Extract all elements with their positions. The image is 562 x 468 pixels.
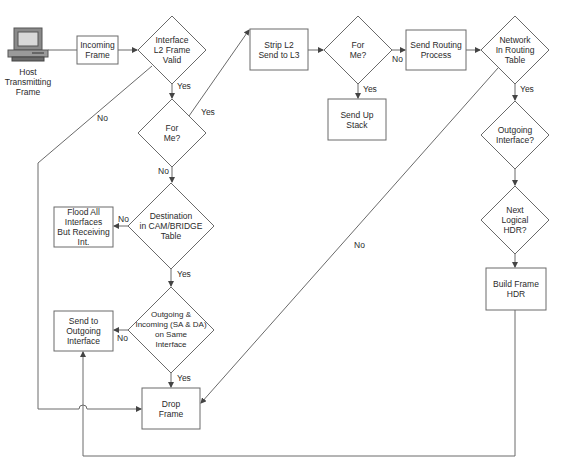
edge-label-destcam-yes: Yes	[177, 269, 191, 279]
edge-label-formel3-no: No	[392, 54, 403, 64]
edge-label-network-yes: Yes	[520, 84, 534, 94]
edge-label-destcam-no: No	[118, 214, 129, 224]
computer-icon	[8, 28, 48, 61]
incoming-frame-label: Incoming Frame	[77, 36, 118, 64]
edge-label-l2valid-yes: Yes	[177, 81, 191, 91]
edge-label-formel3-yes: Yes	[363, 84, 377, 94]
for-me-l3-label: For Me?	[326, 35, 390, 65]
build-frame-hdr-label: Build Frame HDR	[486, 268, 546, 310]
outgoing-interface-label: Outgoing Interface?	[483, 120, 547, 150]
edge-label-formel2-yes: Yes	[201, 107, 215, 117]
flood-all-label: Flood All Interfaces But Receiving Int.	[54, 207, 113, 247]
strip-l2-label: Strip L2 Send to L3	[250, 29, 308, 70]
edge-label-sameif-yes: Yes	[177, 373, 191, 383]
l2-valid-label: Interface L2 Frame Valid	[140, 30, 204, 70]
edge-label-sameif-no: No	[117, 333, 128, 343]
drop-frame-label: Drop Frame	[142, 388, 200, 429]
next-logical-hdr-label: Next Logical HDR?	[483, 200, 547, 240]
for-me-l2-label: For Me?	[140, 118, 204, 148]
host-label: Host Transmitting Frame	[0, 66, 56, 98]
edge-label-l2valid-no: No	[97, 113, 108, 123]
dest-in-cam-label: Destination in CAM/BRIDGE Table	[130, 206, 212, 246]
send-to-outgoing-label: Send to Outgoing Interface	[54, 311, 113, 351]
send-routing-label: Send Routing Process	[406, 30, 466, 70]
send-up-stack-label: Send Up Stack	[328, 99, 386, 140]
edge-label-network-no: No	[354, 240, 365, 250]
network-in-table-label: Network In Routing Table	[483, 30, 547, 70]
edge-label-formel2-no: No	[158, 166, 169, 176]
same-interface-label: Outgoing & Incoming (SA & DA) on Same In…	[124, 310, 218, 350]
